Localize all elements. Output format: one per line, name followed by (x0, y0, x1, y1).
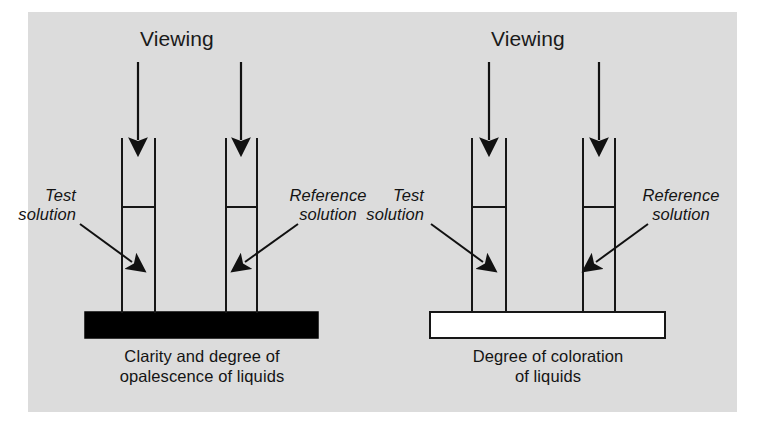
panel-clarity-caption-line1: Clarity and degree of (52, 346, 352, 366)
panel-clarity-caption-line2: opalescence of liquids (52, 366, 352, 386)
panel-coloration-caption-line2: of liquids (398, 366, 698, 386)
panel-clarity-reference-tube (226, 138, 257, 313)
panel-coloration-caption-line1: Degree of coloration (398, 346, 698, 366)
panel-clarity-viewing-arrows (138, 62, 241, 140)
panel-coloration-base-plate (430, 312, 665, 338)
panel-coloration-test-tube (472, 138, 506, 313)
panel-coloration-reference-label-line1: Reference (626, 186, 736, 205)
figure-gray-panel: Viewing Test solution Reference solution… (28, 12, 737, 412)
panel-coloration-test-label-line1: Test (328, 186, 424, 205)
panel-coloration-reference-label-line2: solution (626, 205, 736, 224)
panel-coloration-viewing-arrows (489, 62, 599, 140)
panel-clarity-test-label-line2: solution (0, 205, 76, 224)
panel-clarity-pointer-arrows (80, 224, 298, 262)
panel-clarity-test-label-line1: Test (0, 186, 76, 205)
panel-clarity-base-plate (85, 312, 318, 338)
panel-clarity-test-tube (122, 138, 155, 313)
figure-root: Viewing Test solution Reference solution… (0, 0, 761, 436)
panel-coloration-test-label-line2: solution (328, 205, 424, 224)
panel-coloration-reference-tube (583, 138, 615, 313)
